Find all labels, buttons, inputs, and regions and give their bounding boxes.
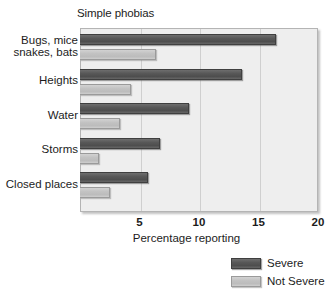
severe-swatch [231,258,261,269]
category-label-line: snakes, bats [13,46,78,59]
category-label-line: Bugs, mice [13,34,78,47]
x-tick-label: 10 [193,216,206,228]
legend-label-not-severe: Not Severe [267,275,325,287]
gridline [260,29,261,211]
category-label-line: Water [48,109,78,122]
chart-title: Simple phobias [77,7,154,19]
bar-severe [80,34,276,45]
bar-chart: Simple phobias Percentage reporting Seve… [0,0,331,292]
category-label-line: Storms [42,143,78,156]
bar-not-severe [80,118,120,129]
category-label-line: Heights [39,74,78,87]
bar-severe [80,172,148,183]
legend-label-severe: Severe [267,257,303,269]
bar-severe [80,138,160,149]
category-label: Heights [39,74,78,87]
category-label: Storms [42,143,78,156]
category-label: Closed places [6,178,78,191]
bar-severe [80,103,189,114]
x-axis-title: Percentage reporting [0,232,331,244]
not-severe-swatch [231,276,261,287]
x-tick-label: 20 [312,216,325,228]
x-tick-label: 15 [252,216,265,228]
bar-not-severe [80,84,131,95]
bar-not-severe [80,153,99,164]
bar-severe [80,69,242,80]
bar-not-severe [80,49,156,60]
category-label: Bugs, micesnakes, bats [13,34,78,59]
gridline [200,29,201,211]
bar-not-severe [80,187,110,198]
category-label-line: Closed places [6,178,78,191]
x-tick-label: 5 [136,216,142,228]
category-label: Water [48,109,78,122]
